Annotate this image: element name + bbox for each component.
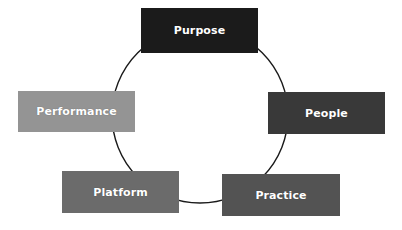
node-platform[interactable]: Platform xyxy=(62,171,179,213)
node-platform-label: Platform xyxy=(93,187,148,198)
node-practice[interactable]: Practice xyxy=(222,174,340,216)
node-purpose-label: Purpose xyxy=(174,25,225,36)
node-practice-label: Practice xyxy=(255,190,306,201)
node-performance-label: Performance xyxy=(36,106,117,117)
cycle-diagram: Purpose People Practice Platform Perform… xyxy=(0,0,402,230)
node-purpose[interactable]: Purpose xyxy=(141,8,258,53)
node-people-label: People xyxy=(305,108,348,119)
node-performance[interactable]: Performance xyxy=(18,91,135,132)
node-people[interactable]: People xyxy=(268,92,385,134)
